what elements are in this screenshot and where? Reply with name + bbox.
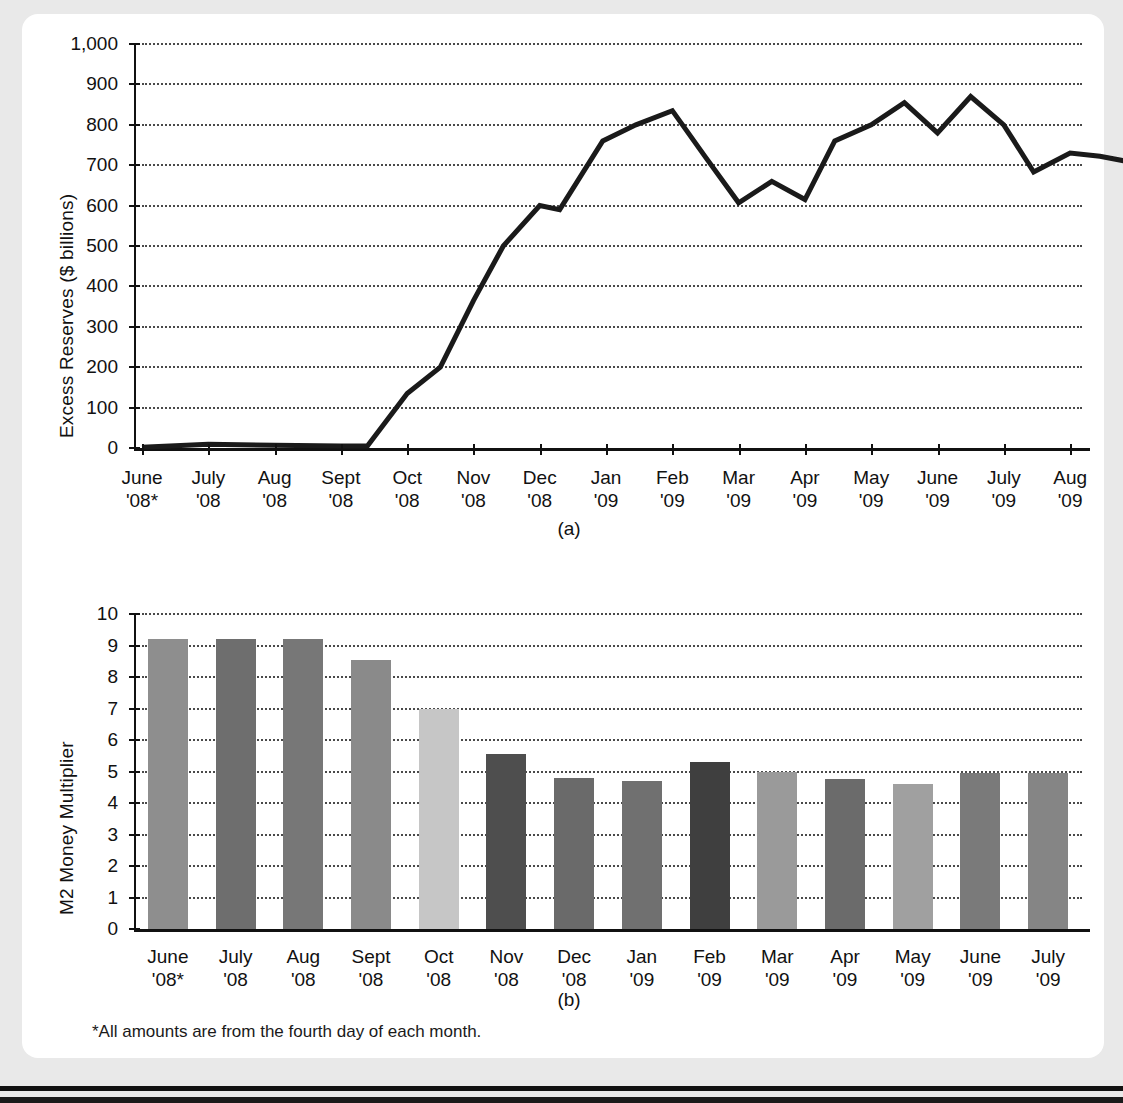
panel-a-x-label-year: '08	[523, 489, 557, 512]
panel-b-x-label: Oct'08	[424, 945, 454, 991]
panel-b-x-label: Apr'09	[830, 945, 860, 991]
panel-a-x-tickmark	[805, 444, 807, 455]
panel-b-x-label: Jan'09	[627, 945, 658, 991]
panel-a-x-tickmark	[1070, 444, 1072, 455]
panel-a-x-label: Oct'08	[392, 466, 422, 512]
panel-b-x-label-year: '08*	[147, 968, 188, 991]
panel-b-x-label-month: Sept	[351, 945, 390, 968]
panel-a-x-label-month: July	[191, 466, 225, 489]
panel-b-x-label-year: '09	[1031, 968, 1065, 991]
panel-b-y-tick-label: 0	[107, 918, 118, 940]
panel-a-x-label-month: Sept	[321, 466, 360, 489]
panel-a-x-label: July'09	[987, 466, 1021, 512]
panel-a-x-tickmark	[540, 444, 542, 455]
panel-a-x-tickmark	[672, 444, 674, 455]
panel-b-x-label: Nov'08	[490, 945, 524, 991]
panel-b-bar	[690, 762, 730, 929]
panel-b-y-tick-label: 1	[107, 887, 118, 909]
panel-b-x-label-month: Jan	[627, 945, 658, 968]
panel-a-x-label: Dec'08	[523, 466, 557, 512]
panel-a-x-tickmark	[142, 444, 144, 455]
panel-a-x-label-month: June	[121, 466, 162, 489]
panel-b-x-label-month: Nov	[490, 945, 524, 968]
panel-b-letter: (b)	[557, 989, 580, 1011]
panel-b-x-label: June'08*	[147, 945, 188, 991]
panel-b-bar	[960, 773, 1000, 929]
panel-b-y-tick-label: 9	[107, 635, 118, 657]
panel-b-x-label-year: '09	[627, 968, 658, 991]
panel-b-bar	[622, 781, 662, 929]
figure-page: Excess Reserves ($ billions) 01002003004…	[0, 0, 1123, 1103]
panel-b-bar	[283, 639, 323, 929]
panel-b-x-label: May'09	[895, 945, 931, 991]
panel-b-x-label-year: '09	[693, 968, 726, 991]
panel-b-y-tick-label: 10	[97, 603, 118, 625]
panel-b-bar	[554, 778, 594, 929]
panel-b-x-label-month: Aug	[286, 945, 320, 968]
panel-a-x-label-month: Nov	[457, 466, 491, 489]
panel-a-x-label-month: May	[853, 466, 889, 489]
panel-b-bar	[148, 639, 188, 929]
panel-b-bar	[351, 660, 391, 929]
panel-a-x-tickmark	[473, 444, 475, 455]
panel-b-bar	[757, 772, 797, 930]
panel-b-y-axis-line	[134, 614, 136, 931]
panel-a-x-tickmark	[208, 444, 210, 455]
panel-a-x-label: Mar'09	[722, 466, 755, 512]
panel-a-x-tickmark	[871, 444, 873, 455]
panel-a-x-label: Aug'08	[258, 466, 292, 512]
panel-a-x-label-month: Aug	[1053, 466, 1087, 489]
panel-b-x-label: June'09	[960, 945, 1001, 991]
panel-a-x-label-month: Apr	[790, 466, 820, 489]
panel-b-x-label: Feb'09	[693, 945, 726, 991]
panel-b-y-tick-label: 6	[107, 729, 118, 751]
panel-a-x-label-month: July	[987, 466, 1021, 489]
panel-a-x-label: Feb'09	[656, 466, 689, 512]
panel-a-x-tickmark	[938, 444, 940, 455]
panel-b-x-label-year: '08	[219, 968, 253, 991]
panel-a-x-label-month: Feb	[656, 466, 689, 489]
panel-b-y-tick-label: 5	[107, 761, 118, 783]
panel-a-x-label-year: '09	[790, 489, 820, 512]
panel-a-x-label: May'09	[853, 466, 889, 512]
panel-b-x-label-month: Feb	[693, 945, 726, 968]
panel-b-x-label-month: Dec	[557, 945, 591, 968]
panel-b-x-label-month: Mar	[761, 945, 794, 968]
panel-b-x-label-month: July	[1031, 945, 1065, 968]
panel-b-x-label: July'09	[1031, 945, 1065, 991]
panel-a-x-label: Nov'08	[457, 466, 491, 512]
panel-b-y-tick-label: 4	[107, 792, 118, 814]
panel-b-x-label-year: '09	[830, 968, 860, 991]
panel-a-x-tickmark	[1004, 444, 1006, 455]
panel-a-x-tickmark	[606, 444, 608, 455]
panel-b-x-label-month: June	[960, 945, 1001, 968]
panel-a-x-label-year: '09	[987, 489, 1021, 512]
panel-a-x-label: July'08	[191, 466, 225, 512]
panel-a-x-label: June'08*	[121, 466, 162, 512]
panel-b-x-label: Dec'08	[557, 945, 591, 991]
panel-a-x-label-month: Aug	[258, 466, 292, 489]
panel-b-x-label-year: '09	[895, 968, 931, 991]
panel-b-y-tick-label: 2	[107, 855, 118, 877]
panel-b-x-label-month: July	[219, 945, 253, 968]
panel-b-x-label-year: '09	[960, 968, 1001, 991]
panel-a-x-label-year: '09	[656, 489, 689, 512]
panel-a-letter: (a)	[557, 518, 580, 540]
panel-a-x-tickmark	[275, 444, 277, 455]
panel-b-bar-chart: M2 Money Multiplier 012345678910 June'08…	[22, 584, 1104, 1024]
panel-a-x-label-month: June	[917, 466, 958, 489]
panel-a-x-label-year: '08*	[121, 489, 162, 512]
panel-a-x-label: Jan'09	[591, 466, 622, 512]
figure-footnote: *All amounts are from the fourth day of …	[92, 1022, 481, 1042]
panel-b-x-label-month: May	[895, 945, 931, 968]
panel-b-y-axis-label: M2 Money Multiplier	[56, 741, 78, 915]
panel-b-bar	[825, 779, 865, 929]
panel-b-x-label-year: '08	[351, 968, 390, 991]
panel-b-bar	[216, 639, 256, 929]
panel-b-x-label-year: '08	[286, 968, 320, 991]
panel-a-x-label-year: '08	[258, 489, 292, 512]
figure-card: Excess Reserves ($ billions) 01002003004…	[22, 14, 1104, 1058]
bottom-rule-secondary	[0, 1097, 1123, 1103]
panel-a-x-label-year: '08	[392, 489, 422, 512]
panel-a-x-label-year: '09	[917, 489, 958, 512]
